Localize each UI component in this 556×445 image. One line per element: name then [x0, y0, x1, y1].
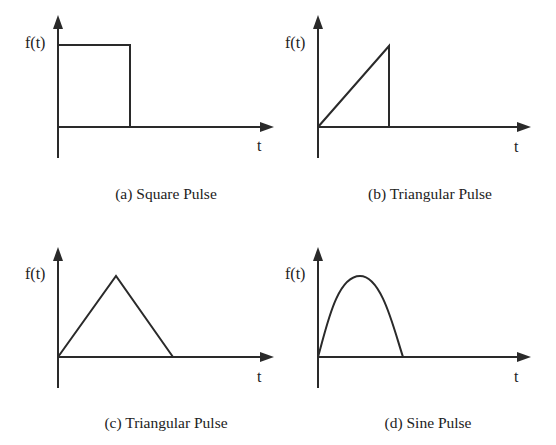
caption: (a) Square Pulse	[115, 185, 217, 203]
caption: (c) Triangular Pulse	[104, 414, 227, 432]
y-axis-arrow-icon	[313, 15, 323, 29]
x-axis-arrow-icon	[260, 352, 274, 362]
panel-square-pulse: f(t) t (a) Square Pulse	[25, 15, 274, 203]
panel-sine-pulse: f(t) t (d) Sine Pulse	[285, 247, 531, 432]
y-axis-label: f(t)	[285, 34, 305, 52]
ramp-pulse-curve	[318, 46, 389, 127]
y-axis-label: f(t)	[25, 34, 45, 52]
x-axis-label: t	[514, 368, 519, 385]
pulse-diagram: f(t) t (a) Square Pulse f(t) t (b) Trian…	[0, 0, 556, 445]
caption: (b) Triangular Pulse	[368, 185, 492, 203]
y-axis-arrow-icon	[53, 247, 63, 261]
sine-pulse-curve	[318, 276, 403, 357]
y-axis-arrow-icon	[53, 15, 63, 29]
y-axis-label: f(t)	[285, 265, 305, 283]
panel-ramp-pulse: f(t) t (b) Triangular Pulse	[285, 15, 531, 203]
x-axis-label: t	[257, 368, 262, 385]
y-axis-arrow-icon	[313, 247, 323, 261]
panel-triangle-pulse: f(t) t (c) Triangular Pulse	[25, 247, 274, 432]
caption: (d) Sine Pulse	[385, 414, 472, 432]
triangle-pulse-curve	[58, 276, 173, 357]
x-axis-label: t	[257, 137, 262, 154]
x-axis-label: t	[514, 138, 519, 155]
x-axis-arrow-icon	[260, 122, 274, 132]
x-axis-arrow-icon	[517, 122, 531, 132]
x-axis-arrow-icon	[517, 352, 531, 362]
y-axis-label: f(t)	[25, 265, 45, 283]
square-pulse-curve	[58, 45, 130, 127]
